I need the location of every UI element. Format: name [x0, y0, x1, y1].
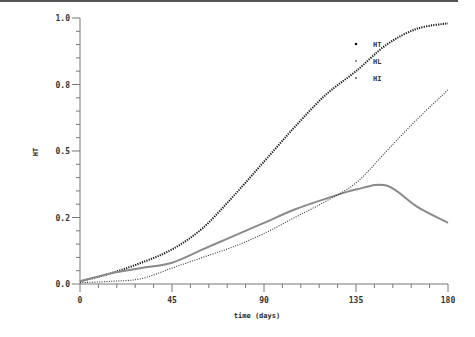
legend-marker-hl [355, 60, 357, 62]
y-axis-title: HT [32, 148, 40, 156]
x-tick-label: 135 [349, 296, 364, 305]
x-axis-title: time (days) [234, 312, 280, 320]
y-tick-label: 1.0 [56, 14, 71, 23]
legend-marker-hi [355, 77, 357, 79]
legend-marker-ht [355, 43, 358, 46]
x-tick-label: 45 [167, 296, 177, 305]
legend-label-hi: HI [373, 75, 381, 83]
series-ht-line [80, 23, 448, 281]
x-tick-label: 90 [259, 296, 269, 305]
y-tick-label: 0.8 [56, 81, 71, 90]
legend: HTHLHI [355, 41, 382, 83]
axes: 0.00.20.50.81.004590135180 [56, 14, 456, 305]
legend-label-hl: HL [373, 58, 381, 66]
series-group [80, 23, 448, 282]
y-tick-label: 0.5 [56, 147, 71, 156]
series-hi-line [80, 90, 448, 283]
y-tick-label: 0.0 [56, 280, 71, 289]
y-tick-label: 0.2 [56, 214, 71, 223]
x-tick-label: 0 [78, 296, 83, 305]
line-chart: 0.00.20.50.81.004590135180 HTHLHI time (… [0, 0, 475, 337]
legend-label-ht: HT [373, 41, 381, 49]
x-tick-label: 180 [441, 296, 456, 305]
